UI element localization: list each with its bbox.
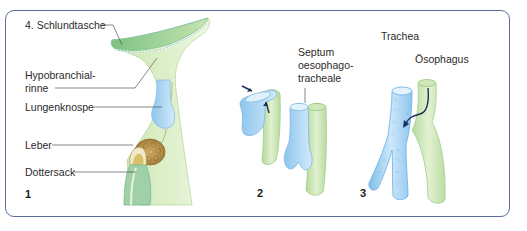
label-trachea: Trachea — [381, 30, 419, 43]
label-oesophagus: Ösophagus — [415, 53, 469, 66]
label-lungenknospe: Lungenknospe — [25, 101, 94, 114]
label-hypobranchialrinne-1: Hypobranchial- — [25, 69, 96, 82]
label-leber: Leber — [25, 139, 52, 152]
label-septum-2: oesophago- — [298, 59, 353, 72]
label-septum-3: tracheale — [298, 72, 341, 85]
label-septum-1: Septum — [298, 46, 334, 59]
panel-2-separation — [240, 86, 326, 195]
embryology-illustration — [0, 0, 527, 231]
panel-3-trachea-oesophagus — [369, 80, 445, 204]
panel-number-3: 3 — [360, 187, 366, 199]
label-schlundtasche: 4. Schlundtasche — [25, 19, 106, 32]
panel-number-2: 2 — [257, 187, 263, 199]
label-hypobranchialrinne-2: rinne — [25, 82, 48, 95]
panel-1-foregut — [111, 18, 209, 205]
label-dottersack: Dottersack — [25, 166, 75, 179]
panel-number-1: 1 — [25, 188, 31, 200]
